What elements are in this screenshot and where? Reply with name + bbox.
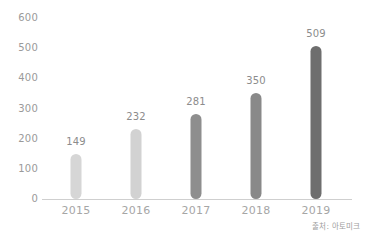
bar-value-label-2019: 509 xyxy=(306,29,326,39)
bar-value-label-2016: 232 xyxy=(126,112,146,122)
bar-2018[interactable] xyxy=(251,93,262,199)
bar-2016[interactable] xyxy=(131,129,142,199)
y-axis-tick-0: 0 xyxy=(6,194,38,204)
bar-group-2018: 350 2018 xyxy=(226,0,286,243)
source-note: 출처: 아토미크 xyxy=(312,222,360,231)
bar-value-label-2017: 281 xyxy=(186,97,206,107)
y-axis-tick-400: 400 xyxy=(6,73,38,83)
x-axis-label-2016: 2016 xyxy=(121,205,150,217)
bar-group-2015: 149 2015 xyxy=(46,0,106,243)
bar-group-2017: 281 2017 xyxy=(166,0,226,243)
bar-2019[interactable] xyxy=(311,46,322,200)
x-axis-label-2019: 2019 xyxy=(301,205,330,217)
bar-value-label-2018: 350 xyxy=(246,76,266,86)
x-axis-label-2017: 2017 xyxy=(181,205,210,217)
bar-2015[interactable] xyxy=(71,154,82,199)
bar-value-label-2015: 149 xyxy=(66,137,86,147)
y-axis-tick-600: 600 xyxy=(6,13,38,23)
y-axis-tick-200: 200 xyxy=(6,134,38,144)
bar-chart: 600 500 400 300 200 100 0 149 2015 232 2… xyxy=(0,0,366,243)
x-axis-label-2018: 2018 xyxy=(241,205,270,217)
bar-2017[interactable] xyxy=(191,114,202,199)
y-axis-tick-500: 500 xyxy=(6,43,38,53)
x-axis-label-2015: 2015 xyxy=(61,205,90,217)
plot-area: 600 500 400 300 200 100 0 149 2015 232 2… xyxy=(0,0,366,243)
bar-group-2016: 232 2016 xyxy=(106,0,166,243)
y-axis-tick-100: 100 xyxy=(6,164,38,174)
bar-group-2019: 509 2019 xyxy=(286,0,346,243)
y-axis-tick-300: 300 xyxy=(6,104,38,114)
